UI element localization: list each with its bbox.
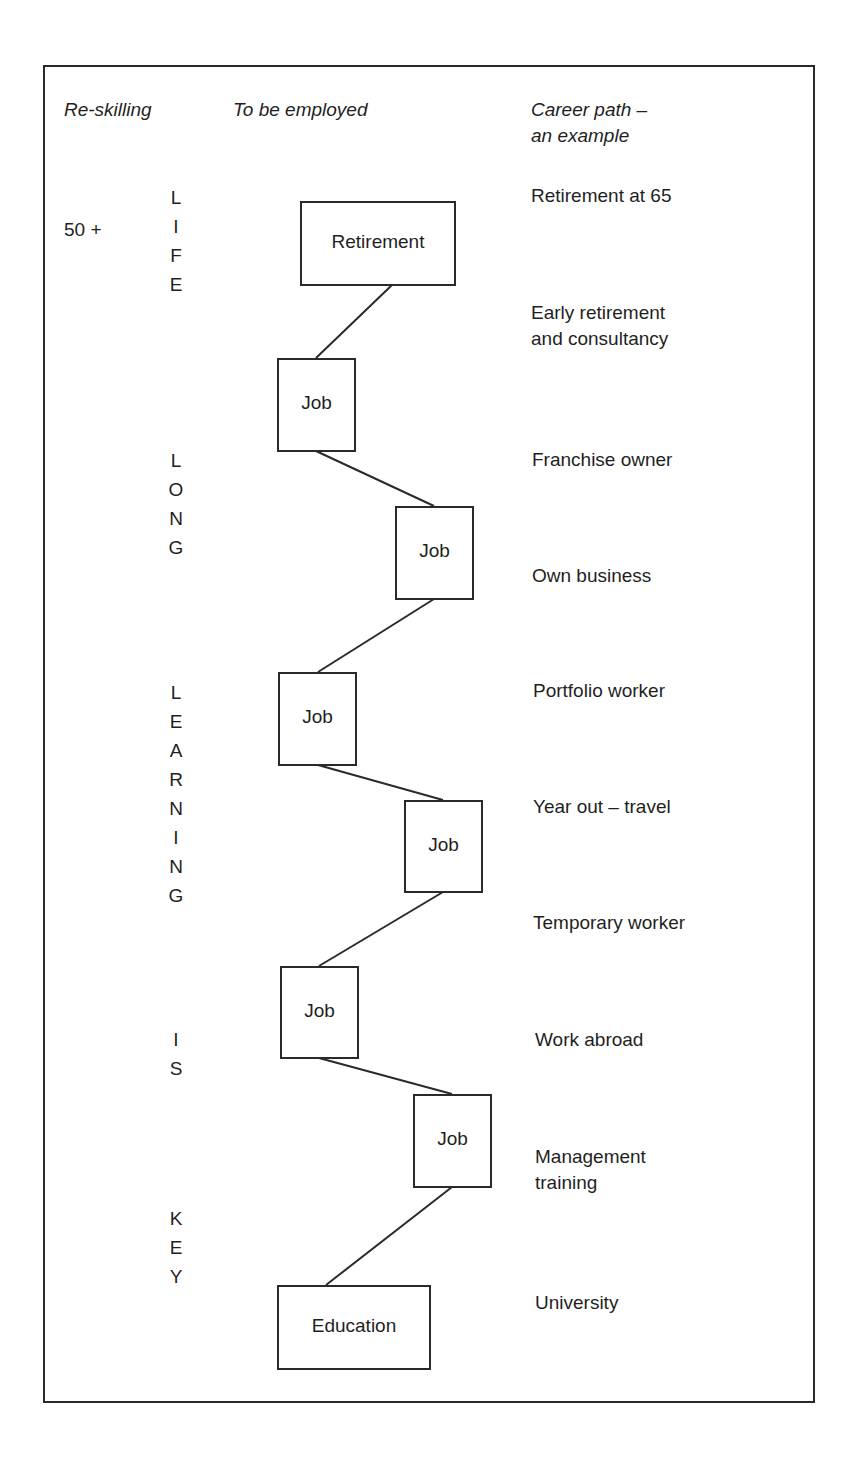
box-job-5: Job	[280, 966, 359, 1059]
career-university: University	[535, 1290, 618, 1316]
box-job-4: Job	[404, 800, 483, 893]
career-portfolio-worker: Portfolio worker	[533, 678, 665, 704]
box-label: Job	[437, 1128, 468, 1150]
career-line: Early retirement	[531, 300, 668, 326]
career-own-business: Own business	[532, 563, 651, 589]
box-job-6: Job	[413, 1094, 492, 1188]
connector-job3-job4	[318, 765, 443, 800]
career-year-out-travel: Year out – travel	[533, 794, 671, 820]
career-management-training: Management training	[535, 1144, 646, 1196]
box-education: Education	[277, 1285, 431, 1370]
connector-job5-job6	[319, 1058, 452, 1094]
connector-retirement-job1	[316, 285, 392, 358]
box-label: Job	[419, 540, 450, 562]
career-early-retirement: Early retirement and consultancy	[531, 300, 668, 352]
box-label: Job	[302, 706, 333, 728]
connector-job6-education	[326, 1187, 452, 1285]
career-work-abroad: Work abroad	[535, 1027, 643, 1053]
box-retirement: Retirement	[300, 201, 456, 286]
box-job-2: Job	[395, 506, 474, 600]
connector-job4-job5	[319, 892, 443, 966]
box-job-1: Job	[277, 358, 356, 452]
box-job-3: Job	[278, 672, 357, 766]
connector-job2-job3	[318, 599, 434, 672]
box-label: Job	[304, 1000, 335, 1022]
career-line: and consultancy	[531, 326, 668, 352]
career-temporary-worker: Temporary worker	[533, 910, 685, 936]
career-franchise-owner: Franchise owner	[532, 447, 672, 473]
career-line: Management	[535, 1144, 646, 1170]
box-label: Job	[301, 392, 332, 414]
career-line: training	[535, 1170, 646, 1196]
career-retirement-at-65: Retirement at 65	[531, 183, 671, 209]
connector-job1-job2	[316, 451, 434, 506]
box-label: Job	[428, 834, 459, 856]
box-label: Retirement	[332, 231, 425, 253]
box-label: Education	[312, 1315, 397, 1337]
